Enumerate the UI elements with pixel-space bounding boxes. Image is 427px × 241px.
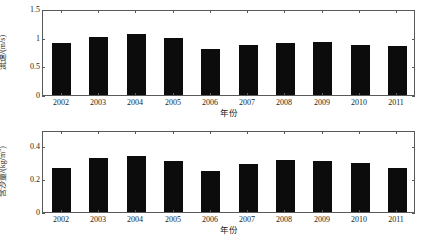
x-tick-label: 2009: [314, 98, 330, 107]
y-tick-label: 1.5: [30, 6, 40, 14]
plot-area-sediment: [42, 131, 415, 213]
x-tick-label: 2003: [90, 215, 106, 224]
bar-2008: [276, 160, 295, 212]
figure-canvas: 00.511.5 2002200320042005200620072008200…: [0, 0, 427, 241]
bar-series-sediment: [43, 132, 414, 212]
x-axis-title-velocity: 年份: [220, 108, 238, 118]
x-tick-mark: [396, 93, 397, 96]
bar-2007: [239, 164, 258, 212]
x-tick-mark: [210, 93, 211, 96]
x-tick-mark: [359, 210, 360, 213]
x-tick-mark: [284, 93, 285, 96]
x-tick-mark-top: [284, 10, 285, 13]
bar-2009: [313, 161, 332, 212]
y-tick-mark: [42, 67, 45, 68]
x-axis-title-sediment: 年份: [220, 225, 238, 235]
x-tick-label: 2007: [239, 215, 255, 224]
bar-2007: [239, 45, 258, 95]
x-tick-mark-top: [98, 131, 99, 134]
x-tick-label: 2006: [202, 98, 218, 107]
x-tick-mark-top: [359, 131, 360, 134]
x-tick-mark-top: [61, 10, 62, 13]
chart-panel-sediment: 00.20.4 20022003200420052006200720082009…: [0, 120, 427, 241]
x-tick-mark: [396, 210, 397, 213]
bar-2011: [388, 46, 407, 95]
x-tick-label: 2008: [276, 98, 292, 107]
y-tick-mark-right: [412, 96, 415, 97]
y-axis-title-sediment-suffix: ): [0, 146, 7, 149]
x-tick-label: 2004: [127, 215, 143, 224]
x-tick-mark: [210, 210, 211, 213]
chart-panel-velocity: 00.511.5 2002200320042005200620072008200…: [0, 0, 427, 120]
x-tick-mark: [98, 93, 99, 96]
x-tick-mark-top: [98, 10, 99, 13]
x-tick-mark: [359, 93, 360, 96]
bar-2002: [52, 168, 71, 212]
y-tick-mark: [42, 96, 45, 97]
bar-2006: [201, 171, 220, 212]
bar-2003: [89, 37, 108, 95]
y-tick-mark-right: [412, 147, 415, 148]
x-tick-label: 2010: [351, 215, 367, 224]
x-tick-label: 2011: [388, 215, 404, 224]
bar-2004: [127, 34, 146, 95]
x-tick-mark-top: [284, 131, 285, 134]
x-tick-label: 2006: [202, 215, 218, 224]
y-axis-title-sediment-prefix: 含沙量/(kg/m: [0, 152, 7, 197]
x-tick-mark-top: [359, 10, 360, 13]
y-tick-mark: [42, 213, 45, 214]
y-tick-mark: [42, 39, 45, 40]
x-tick-mark-top: [173, 10, 174, 13]
x-tick-label: 2011: [388, 98, 404, 107]
x-tick-mark: [322, 93, 323, 96]
x-tick-label: 2005: [165, 98, 181, 107]
y-tick-label: 0: [36, 92, 40, 100]
x-tick-label: 2005: [165, 215, 181, 224]
x-tick-mark-top: [247, 10, 248, 13]
x-tick-mark-top: [322, 10, 323, 13]
y-tick-mark-right: [412, 213, 415, 214]
x-tick-mark: [98, 210, 99, 213]
y-tick-mark: [42, 147, 45, 148]
x-tick-mark: [247, 93, 248, 96]
bar-2009: [313, 42, 332, 95]
x-tick-mark: [247, 210, 248, 213]
y-axis-title-sediment: 含沙量/(kg/m3): [0, 134, 7, 210]
bar-series-velocity: [43, 11, 414, 95]
y-tick-mark-right: [412, 180, 415, 181]
bar-2002: [52, 43, 71, 95]
y-tick-label: 0: [36, 209, 40, 217]
bar-2006: [201, 49, 220, 95]
plot-area-velocity: [42, 10, 415, 96]
y-tick-mark-right: [412, 67, 415, 68]
bar-2008: [276, 43, 295, 95]
x-tick-mark: [135, 210, 136, 213]
x-tick-mark-top: [396, 131, 397, 134]
x-tick-mark-top: [61, 131, 62, 134]
y-tick-mark: [42, 10, 45, 11]
x-tick-mark-top: [173, 131, 174, 134]
x-tick-mark: [173, 93, 174, 96]
x-tick-mark-top: [210, 131, 211, 134]
x-tick-mark: [61, 210, 62, 213]
bar-2005: [164, 161, 183, 212]
x-tick-label: 2008: [276, 215, 292, 224]
y-tick-mark-right: [412, 39, 415, 40]
x-tick-label: 2002: [53, 98, 69, 107]
x-tick-mark-top: [322, 131, 323, 134]
x-tick-label: 2004: [127, 98, 143, 107]
x-tick-label: 2002: [53, 215, 69, 224]
x-tick-mark-top: [135, 131, 136, 134]
y-tick-label: 0.2: [30, 176, 40, 184]
y-tick-label: 1: [36, 35, 40, 43]
bar-2004: [127, 156, 146, 212]
y-tick-mark: [42, 180, 45, 181]
y-tick-mark-right: [412, 10, 415, 11]
x-tick-label: 2009: [314, 215, 330, 224]
bar-2010: [351, 45, 370, 95]
bar-2011: [388, 168, 407, 212]
x-tick-mark: [284, 210, 285, 213]
bar-2003: [89, 158, 108, 212]
y-tick-label: 0.5: [30, 63, 40, 71]
bar-2010: [351, 163, 370, 212]
